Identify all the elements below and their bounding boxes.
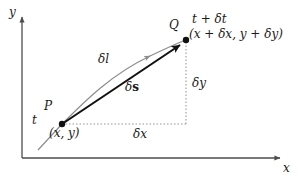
x-axis-label: x	[283, 162, 290, 174]
point-p-time-label: t	[32, 114, 37, 126]
point-p-label: P	[44, 100, 52, 112]
y-axis-label: y	[9, 6, 16, 18]
delta-x-label: δx	[133, 128, 147, 140]
point-q-label: Q	[169, 19, 179, 31]
point-q-time-label: t + δt	[192, 13, 227, 25]
displacement-vector-label: δs	[125, 81, 139, 93]
figure-canvas: y x P t (x, y) Q t + δt (x + δx, y + δy)…	[0, 0, 298, 178]
arc-length-label: δl	[98, 53, 109, 65]
point-q-coords-label: (x + δx, y + δy)	[189, 28, 283, 40]
vector-s-symbol: s	[132, 80, 139, 94]
point-p-coords-label: (x, y)	[49, 127, 80, 139]
delta-y-label: δy	[192, 77, 206, 89]
displacement-vector-arrow	[62, 45, 180, 124]
